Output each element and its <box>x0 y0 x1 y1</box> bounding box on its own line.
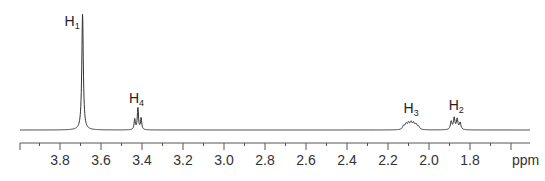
peak-label-h3: H3 <box>404 100 419 118</box>
tick-label: 2.0 <box>419 152 439 168</box>
nmr-spectrum-chart: H1H4H3H2 3.83.63.43.23.02.82.62.42.22.01… <box>0 0 545 181</box>
x-axis-unit-label: ppm <box>512 152 539 168</box>
peak-labels: H1H4H3H2 <box>65 13 464 118</box>
tick-label: 3.2 <box>173 152 193 168</box>
tick-label: 2.2 <box>378 152 398 168</box>
tick-label: 2.6 <box>296 152 316 168</box>
tick-label: 3.6 <box>91 152 111 168</box>
tick-label: 2.8 <box>255 152 275 168</box>
tick-label: 3.4 <box>132 152 152 168</box>
tick-label: 2.4 <box>337 152 357 168</box>
tick-label: 3.8 <box>50 152 70 168</box>
tick-label: 3.0 <box>214 152 234 168</box>
peak-label-h2: H2 <box>449 97 464 115</box>
x-axis: 3.83.63.43.23.02.82.62.42.22.01.8ppm <box>20 143 539 168</box>
tick-label: 1.8 <box>460 152 480 168</box>
peak-label-h4: H4 <box>129 90 144 108</box>
peak-label-h1: H1 <box>65 13 80 31</box>
